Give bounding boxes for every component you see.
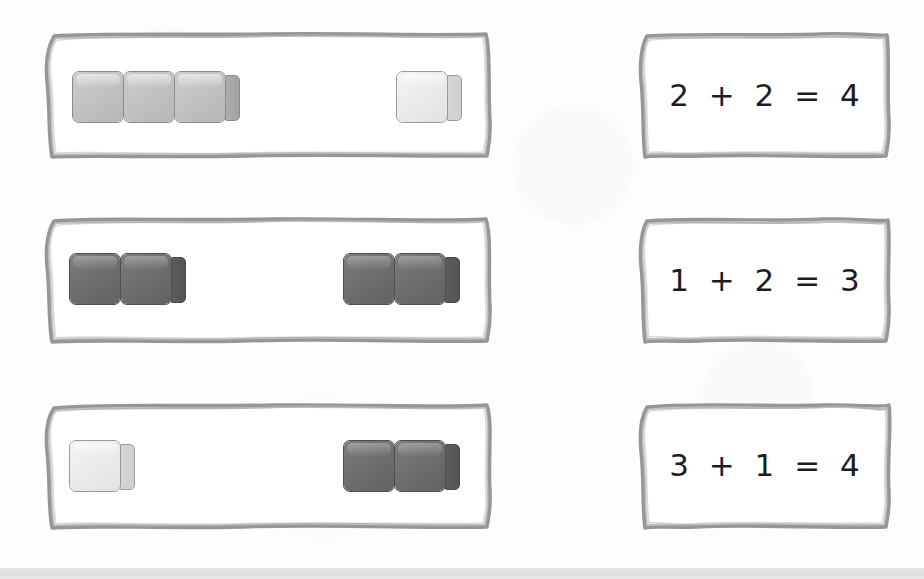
cube[interactable]	[343, 253, 395, 305]
cube[interactable]	[69, 440, 121, 492]
equation-box-1[interactable]: 2 + 2 = 4	[631, 28, 899, 162]
cube-back-slab	[119, 444, 135, 490]
blocks-box-3[interactable]	[36, 398, 500, 532]
cube[interactable]	[69, 253, 121, 305]
cube-group-right[interactable]	[343, 253, 460, 305]
equation-text: 1 + 2 = 3	[631, 213, 899, 347]
worksheet-row: 1 + 2 = 3	[0, 213, 924, 353]
cube-back-slab	[224, 75, 240, 121]
cube[interactable]	[396, 71, 448, 123]
cube[interactable]	[72, 71, 124, 123]
cube[interactable]	[123, 71, 175, 123]
equation-box-2[interactable]: 1 + 2 = 3	[631, 213, 899, 347]
blocks-box-2[interactable]	[36, 213, 500, 347]
cube-group-left[interactable]	[69, 440, 135, 492]
cube-back-slab	[170, 257, 186, 303]
worksheet-page: 2 + 2 = 4	[0, 0, 924, 579]
cube-back-slab	[444, 444, 460, 490]
cube-group-left[interactable]	[72, 71, 240, 123]
cube-back-slab	[444, 257, 460, 303]
cube-group-right[interactable]	[343, 440, 460, 492]
equation-box-3[interactable]: 3 + 1 = 4	[631, 398, 899, 532]
bottom-strip	[0, 568, 924, 579]
cube-group-left[interactable]	[69, 253, 186, 305]
cube-back-slab	[446, 75, 462, 121]
cube[interactable]	[394, 440, 446, 492]
worksheet-row: 2 + 2 = 4	[0, 28, 924, 168]
cube[interactable]	[174, 71, 226, 123]
worksheet-row: 3 + 1 = 4	[0, 398, 924, 538]
cube[interactable]	[394, 253, 446, 305]
equation-text: 3 + 1 = 4	[631, 398, 899, 532]
cube[interactable]	[120, 253, 172, 305]
equation-text: 2 + 2 = 4	[631, 28, 899, 162]
blocks-box-1[interactable]	[36, 28, 500, 162]
cube[interactable]	[343, 440, 395, 492]
cube-group-right[interactable]	[396, 71, 462, 123]
